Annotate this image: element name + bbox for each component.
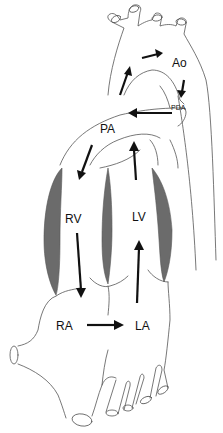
interventricular-septum — [102, 168, 112, 284]
valve-outlines — [56, 270, 168, 315]
arrow-ra-to-la — [87, 320, 124, 330]
label-lv: LV — [132, 210, 146, 224]
lv-free-wall — [152, 168, 172, 282]
arrow-arch-right — [142, 49, 163, 58]
fetal-circulation-diagram: Ao PDA PA RV LV RA LA — [0, 0, 223, 433]
label-ao: Ao — [172, 56, 187, 70]
arrow-la-to-lv — [134, 240, 144, 303]
label-pa: PA — [100, 122, 115, 136]
label-rv: RV — [65, 212, 81, 226]
rv-free-wall — [44, 168, 62, 295]
arrow-pa-to-rv — [77, 145, 92, 180]
arrow-lv-outflow — [129, 141, 139, 180]
arrow-rv-down — [76, 233, 86, 298]
pulmonary-artery-outline — [60, 108, 186, 168]
label-la: LA — [135, 319, 150, 333]
flow-arrows — [76, 49, 186, 330]
label-pda: PDA — [171, 104, 186, 111]
label-ra: RA — [56, 319, 73, 333]
atria-outline — [10, 282, 170, 428]
